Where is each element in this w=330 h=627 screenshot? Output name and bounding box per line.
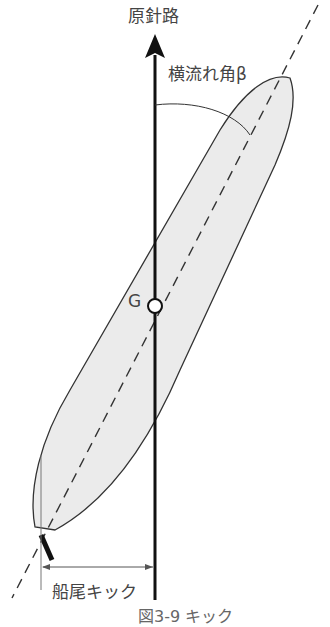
original-course-label: 原針路	[128, 2, 179, 27]
ship-hull	[33, 77, 293, 530]
rudder	[41, 535, 52, 560]
kick-arrow-right-icon	[145, 564, 153, 570]
center-of-gravity-marker	[148, 299, 162, 313]
drift-angle-label: 横流れ角β	[168, 60, 247, 85]
center-label: G	[128, 291, 141, 311]
course-arrow-icon	[145, 34, 165, 58]
stern-kick-label: 船尾キック	[52, 578, 137, 603]
kick-arrow-left-icon	[42, 564, 50, 570]
figure-caption: 図3-9 キック	[138, 603, 233, 627]
